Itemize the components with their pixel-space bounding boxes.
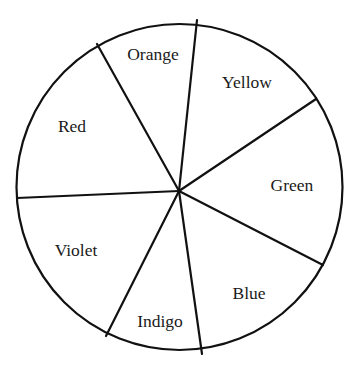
slice-label-green: Green xyxy=(271,175,314,195)
pie-chart: Orange Yellow Green Blue Indigo Violet R… xyxy=(0,0,354,373)
slice-label-blue: Blue xyxy=(232,283,265,303)
slice-label-yellow: Yellow xyxy=(222,72,272,92)
slice-label-orange: Orange xyxy=(127,44,179,64)
slice-label-violet: Violet xyxy=(55,240,98,260)
slice-label-red: Red xyxy=(58,116,86,136)
slice-label-indigo: Indigo xyxy=(137,311,183,331)
